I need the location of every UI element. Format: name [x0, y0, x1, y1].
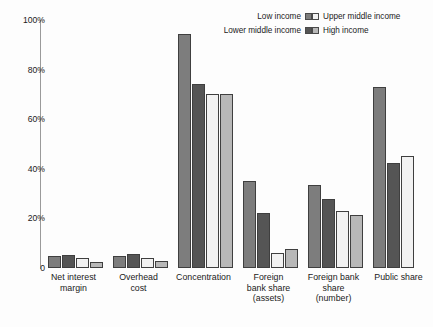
bar: [192, 84, 205, 268]
bar: [387, 163, 400, 268]
bar: [62, 255, 75, 268]
bar: [76, 258, 89, 268]
bar-group: [48, 20, 103, 268]
y-axis-tick: 40%: [0, 169, 45, 170]
y-axis-tick: 0: [0, 268, 45, 269]
bar-group: [113, 20, 168, 268]
bar: [308, 185, 321, 268]
bar-group: [243, 20, 298, 268]
bar: [285, 249, 298, 268]
y-axis-tick-label: 60%: [9, 115, 45, 124]
y-axis-tick-label: 20%: [9, 214, 45, 223]
bar: [336, 211, 349, 268]
plot-area: [41, 20, 431, 268]
bar: [90, 262, 103, 268]
bar: [155, 261, 168, 268]
y-axis-tick-label: 40%: [9, 165, 45, 174]
bar: [350, 215, 363, 268]
bar: [271, 253, 284, 268]
x-axis-label: Public share: [360, 272, 433, 283]
bar: [113, 256, 126, 268]
bar: [322, 199, 335, 268]
bar-group: [308, 20, 363, 268]
bar: [257, 213, 270, 268]
bar: [141, 258, 154, 268]
bar-chart: Low income Upper middle income Lower mid…: [0, 0, 433, 327]
bar: [243, 181, 256, 268]
y-axis-tick: 60%: [0, 119, 45, 120]
bar-group: [178, 20, 233, 268]
y-axis-tick-label: 100%: [9, 16, 45, 25]
bar: [48, 256, 61, 268]
bar: [206, 94, 219, 268]
bar: [127, 254, 140, 268]
bar: [178, 34, 191, 268]
y-axis-tick: 80%: [0, 70, 45, 71]
y-axis-tick-label: 80%: [9, 66, 45, 75]
bar: [401, 156, 414, 268]
bar: [220, 94, 233, 268]
bar-group: [373, 20, 428, 268]
y-axis-tick: 20%: [0, 218, 45, 219]
bar: [373, 87, 386, 268]
y-axis-tick: 100%: [0, 20, 45, 21]
